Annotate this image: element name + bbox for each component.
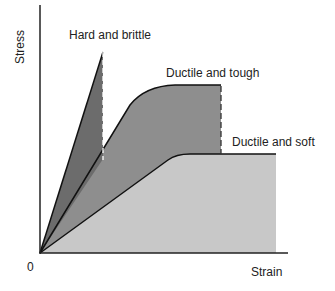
origin-label: 0 (27, 260, 34, 274)
y-axis-label: Stress (13, 30, 27, 64)
tough-label: Ductile and tough (166, 66, 259, 80)
brittle-label: Hard and brittle (69, 28, 151, 42)
x-axis-label: Strain (251, 265, 282, 279)
soft-label: Ductile and soft (232, 135, 315, 149)
